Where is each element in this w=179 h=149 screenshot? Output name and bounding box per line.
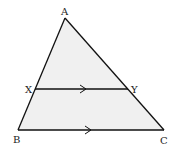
triangle-abc-fill <box>18 18 164 130</box>
label-c: C <box>160 135 168 146</box>
label-b: B <box>13 134 20 145</box>
label-y: Y <box>130 84 138 95</box>
label-a: A <box>60 6 69 17</box>
label-x: X <box>25 84 33 95</box>
triangle-diagram: A X Y B C <box>0 0 179 149</box>
